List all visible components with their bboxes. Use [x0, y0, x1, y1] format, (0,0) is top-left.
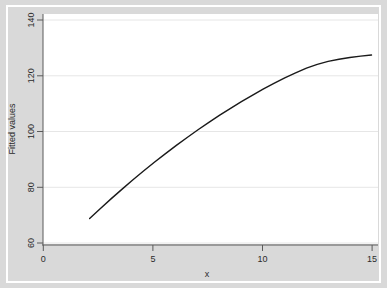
x-tick-label-10: 10: [257, 254, 267, 264]
y-axis-title: Fitted values: [7, 103, 17, 155]
x-axis-title: x: [205, 269, 210, 279]
y-tick-label-100: 100: [26, 124, 36, 139]
plot-area-background: [43, 14, 378, 244]
y-tick-label-80: 80: [26, 182, 36, 192]
y-tick-label-60: 60: [26, 238, 36, 248]
y-tick-label-140: 140: [26, 12, 36, 27]
x-tick-label-0: 0: [41, 254, 46, 264]
y-tick-label-120: 120: [26, 68, 36, 83]
chart-canvas: 140 120 100 80 60 0 5 10 15 Fitted value…: [0, 0, 387, 288]
x-tick-label-15: 15: [367, 254, 377, 264]
x-tick-label-5: 5: [150, 254, 155, 264]
fitted-values-line-chart: 140 120 100 80 60 0 5 10 15 Fitted value…: [0, 0, 387, 288]
chart-figure: 140 120 100 80 60 0 5 10 15 Fitted value…: [0, 0, 387, 288]
